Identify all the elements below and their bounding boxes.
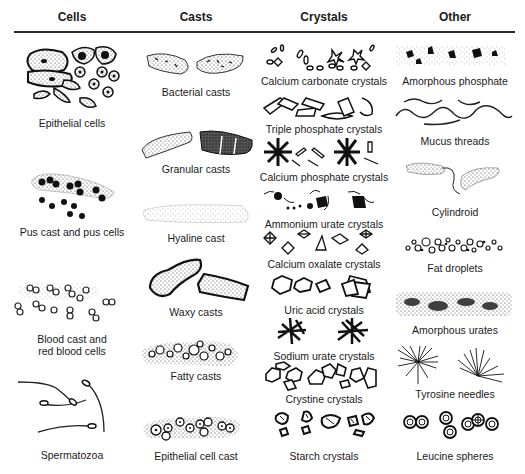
label-epithelial-cells: Epithelial cells	[7, 117, 137, 129]
spermatozoa-illustration	[16, 380, 111, 440]
amorphous-urates-illustration	[396, 290, 512, 320]
leucine-spheres-illustration	[402, 410, 502, 440]
label-bacterial-casts: Bacterial casts	[131, 86, 261, 98]
label-fat-droplets: Fat droplets	[390, 262, 520, 274]
label-epithelial-cell-cast: Epithelial cell cast	[131, 450, 261, 462]
mucus-threads-illustration	[394, 96, 514, 128]
label-leucine-spheres: Leucine spheres	[390, 450, 520, 462]
fatty-casts-illustration	[140, 336, 240, 370]
hyaline-cast-illustration	[142, 202, 252, 226]
column-header-crystals: Crystals	[259, 10, 389, 24]
label-cylindroid: Cylindroid	[390, 206, 520, 218]
bacterial-casts-illustration	[145, 48, 247, 80]
calcium-carbonate-crystals-illustration	[262, 42, 382, 74]
column-header-casts: Casts	[131, 10, 261, 24]
calcium-phosphate-crystals-illustration	[264, 138, 384, 166]
label-calcium-carbonate-crystals: Calcium carbonate crystals	[257, 75, 391, 87]
label-granular-casts: Granular casts	[131, 163, 261, 175]
label-calcium-oxalate-crystals: Calcium oxalate crystals	[257, 258, 391, 270]
column-header-other: Other	[390, 10, 520, 24]
pus-cast-illustration	[30, 170, 115, 225]
sodium-urate-crystals-illustration	[276, 316, 376, 346]
triple-phosphate-crystals-illustration	[262, 94, 382, 122]
label-ammonium-urate-crystals: Ammonium urate crystals	[257, 218, 391, 230]
label-calcium-phosphate-crystals: Calcium phosphate crystals	[257, 171, 391, 183]
label-blood-cast-line2: red blood cells	[7, 345, 137, 357]
ammonium-urate-crystals-illustration	[264, 188, 382, 214]
label-amorphous-urates: Amorphous urates	[390, 324, 520, 336]
cylindroid-illustration	[404, 160, 504, 200]
blood-cast-illustration	[14, 280, 124, 330]
label-amorphous-phosphate: Amorphous phosphate	[390, 75, 520, 87]
label-tyrosine-needles: Tyrosine needles	[390, 388, 520, 400]
granular-casts-illustration	[140, 128, 256, 160]
tyrosine-needles-illustration	[398, 346, 508, 384]
label-uric-acid-crystals: Uric acid crystals	[257, 304, 391, 316]
epithelial-cells-illustration	[22, 42, 122, 114]
label-spermatozoa: Spermatozoa	[7, 449, 137, 461]
waxy-casts-illustration	[148, 256, 253, 306]
label-blood-cast-line1: Blood cast and	[7, 333, 137, 345]
label-triple-phosphate-crystals: Triple phosphate crystals	[257, 123, 391, 135]
calcium-oxalate-crystals-illustration	[262, 230, 382, 254]
crystine-crystals-illustration	[264, 360, 384, 392]
epithelial-cell-cast-illustration	[142, 412, 244, 442]
header-divider	[14, 31, 515, 33]
amorphous-phosphate-illustration	[396, 40, 506, 70]
column-header-cells: Cells	[7, 10, 137, 24]
uric-acid-crystals-illustration	[270, 274, 380, 300]
fat-droplets-illustration	[404, 234, 504, 256]
label-waxy-casts: Waxy casts	[131, 306, 261, 318]
starch-crystals-illustration	[274, 410, 378, 438]
label-fatty-casts: Fatty casts	[131, 370, 261, 382]
label-mucus-threads: Mucus threads	[390, 135, 520, 147]
label-hyaline-cast: Hyaline cast	[131, 232, 261, 244]
label-pus-cast: Pus cast and pus cells	[7, 226, 137, 238]
label-crystine-crystals: Crystine crystals	[257, 393, 391, 405]
label-starch-crystals: Starch crystals	[257, 450, 391, 462]
